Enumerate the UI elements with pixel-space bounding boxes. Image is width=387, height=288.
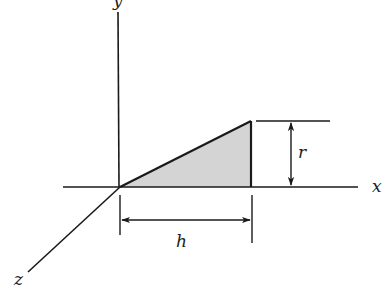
y-axis (118, 12, 119, 187)
z-axis-label: z (13, 269, 24, 288)
r-label: r (298, 142, 307, 162)
x-axis-label: x (372, 176, 382, 196)
y-axis-label: y (112, 0, 123, 10)
z-axis (28, 187, 120, 272)
h-label: h (176, 231, 187, 251)
cone-triangle-diagram: y x z r h (0, 0, 387, 288)
